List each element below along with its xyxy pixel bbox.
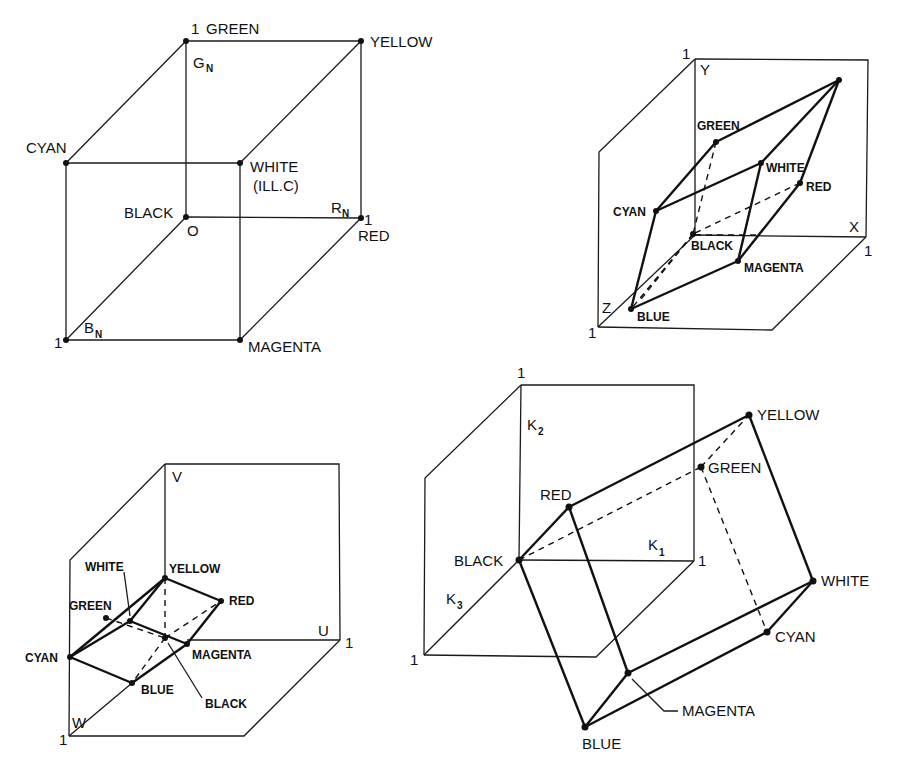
axis-label-k3-sub: 3 bbox=[457, 600, 463, 611]
vertex-label-green: GREEN bbox=[69, 599, 112, 613]
vertex-label-yellow: YELLOW bbox=[370, 33, 433, 50]
unit-y-label: 1 bbox=[682, 45, 690, 62]
axis-label-u: U bbox=[318, 622, 329, 639]
vertex-label-white: WHITE bbox=[250, 158, 298, 175]
axis-label-k2: K bbox=[527, 416, 537, 433]
unit-z-label: 1 bbox=[588, 324, 596, 341]
vertex-label-green: GREEN bbox=[708, 459, 761, 476]
vertex-label-magenta: MAGENTA bbox=[682, 702, 755, 719]
panel-rgb-cube: 1 GREEN YELLOW G N CYAN WHITE (ILL.C) BL… bbox=[26, 20, 433, 355]
vertex-label-black: BLACK bbox=[124, 204, 173, 221]
solid-edges bbox=[70, 578, 221, 683]
vertex-note-white: (ILL.C) bbox=[253, 177, 299, 194]
unit-w-label: 1 bbox=[59, 731, 67, 748]
color-space-figure: 1 GREEN YELLOW G N CYAN WHITE (ILL.C) BL… bbox=[0, 0, 899, 763]
axis-label-r-sub: N bbox=[342, 208, 349, 219]
axis-label-b-sub: N bbox=[95, 329, 102, 340]
vertex-label-blue: BLUE bbox=[637, 310, 670, 324]
vertex-label-cyan: CYAN bbox=[613, 205, 646, 219]
panel-k-space: 1 K 2 YELLOW GREEN RED K 1 BLACK 1 WHITE… bbox=[410, 364, 869, 752]
axis-label-k3: K bbox=[446, 590, 456, 607]
axis-label-g: G bbox=[193, 54, 205, 71]
axis-label-r: R bbox=[331, 199, 342, 216]
panel-xyz-space: 1 Y GREEN WHITE RED CYAN BLACK X 1 MAGEN… bbox=[588, 45, 872, 341]
vertex-label-white: WHITE bbox=[85, 560, 124, 574]
vertex-label-yellow: YELLOW bbox=[757, 406, 820, 423]
vertex-label-magenta: MAGENTA bbox=[192, 648, 252, 662]
axis-label-z: Z bbox=[602, 299, 611, 316]
vertex-label-blue: BLUE bbox=[141, 683, 174, 697]
vertex-label-cyan: CYAN bbox=[775, 628, 816, 645]
hidden-edges bbox=[519, 415, 767, 632]
vertex-label-red: RED bbox=[358, 227, 390, 244]
axis-label-y: Y bbox=[700, 61, 710, 78]
unit-u-label: 1 bbox=[345, 634, 353, 651]
origin-label: O bbox=[187, 222, 199, 239]
axis-label-k1-sub: 1 bbox=[659, 547, 665, 558]
vertex-label-red: RED bbox=[540, 486, 572, 503]
solid-edges bbox=[519, 415, 813, 727]
unit-r-label: 1 bbox=[364, 211, 372, 228]
vertex-label-black: BLACK bbox=[691, 239, 733, 253]
axis-frame bbox=[424, 385, 694, 657]
axis-label-b: B bbox=[84, 319, 94, 336]
vertex-label-magenta: MAGENTA bbox=[248, 338, 321, 355]
unit-x-label: 1 bbox=[864, 242, 872, 259]
axis-frame bbox=[598, 59, 868, 330]
vertex-label-magenta: MAGENTA bbox=[744, 261, 804, 275]
vertex-label-blue: BLUE bbox=[582, 735, 621, 752]
vertex-dots bbox=[516, 412, 817, 731]
cube-edges bbox=[66, 41, 361, 340]
vertex-label-cyan: CYAN bbox=[26, 139, 67, 156]
vertex-label-black: BLACK bbox=[454, 552, 503, 569]
axis-label-w: W bbox=[72, 714, 87, 731]
unit-k3-label: 1 bbox=[410, 651, 418, 668]
vertex-label-white: WHITE bbox=[821, 572, 869, 589]
unit-k2-label: 1 bbox=[517, 364, 525, 381]
vertex-label-green: GREEN bbox=[697, 119, 740, 133]
vertex-label-red: RED bbox=[806, 180, 832, 194]
vertex-label-yellow: YELLOW bbox=[169, 562, 221, 576]
axis-label-x: X bbox=[849, 218, 859, 235]
vertex-label-black: BLACK bbox=[205, 697, 247, 711]
axis-label-k2-sub: 2 bbox=[538, 426, 544, 437]
vertex-label-green: GREEN bbox=[206, 20, 259, 37]
vertex-label-red: RED bbox=[229, 594, 255, 608]
unit-b-label: 1 bbox=[54, 334, 62, 351]
axis-label-g-sub: N bbox=[206, 63, 213, 74]
unit-k1-label: 1 bbox=[698, 552, 706, 569]
panel-uvw-space: V WHITE YELLOW GREEN RED U 1 MAGENTA CYA… bbox=[25, 464, 353, 748]
vertex-label-cyan: CYAN bbox=[25, 651, 58, 665]
unit-g-label: 1 bbox=[191, 20, 199, 37]
pointer-lines bbox=[632, 679, 678, 711]
axis-label-k1: K bbox=[648, 536, 658, 553]
vertex-label-white: WHITE bbox=[766, 161, 805, 175]
solid-edges bbox=[631, 80, 839, 309]
axis-label-v: V bbox=[172, 468, 182, 485]
